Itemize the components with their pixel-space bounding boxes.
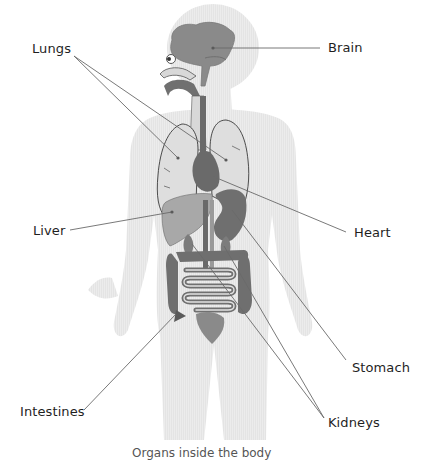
label-stomach: Stomach [352,361,410,374]
label-heart: Heart [354,226,391,239]
label-lungs: Lungs [32,42,71,55]
label-intestines: Intestines [20,405,85,418]
label-liver: Liver [33,224,65,237]
figure-caption: Organs inside the body [132,447,271,459]
label-kidneys: Kidneys [328,416,380,429]
organs-diagram: Brain Lungs Liver Heart Stomach Intestin… [0,0,426,472]
label-brain: Brain [328,41,363,54]
